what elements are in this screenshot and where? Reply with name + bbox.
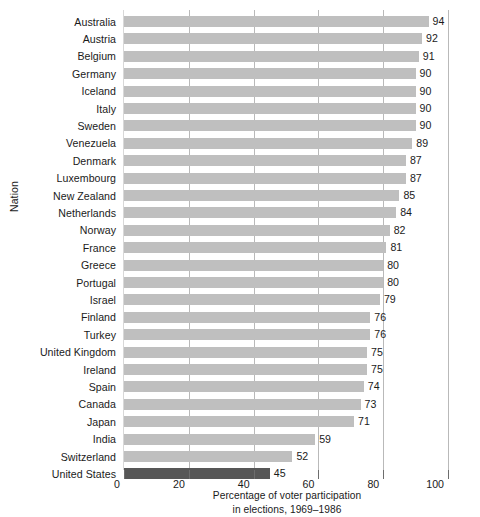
bar-row: 79	[124, 294, 448, 305]
bar-row: 80	[124, 260, 448, 271]
category-label-column: AustraliaAustriaBelgiumGermanyIcelandIta…	[0, 10, 116, 470]
bar-row: 90	[124, 68, 448, 79]
bar-value-label: 52	[296, 450, 308, 462]
x-tick-mark-80	[383, 470, 384, 479]
category-label-italy: Italy	[0, 104, 116, 115]
bar-luxembourg	[124, 173, 406, 184]
bar-austria	[124, 33, 422, 44]
plot-area: 9492919090909089878785848281808079767675…	[124, 10, 448, 470]
bar-value-label: 92	[426, 32, 438, 44]
bar-spain	[124, 381, 364, 392]
category-label-ireland: Ireland	[0, 365, 116, 376]
bar-value-label: 71	[358, 415, 370, 427]
x-axis-caption-line-2: in elections, 1969–1986	[124, 503, 450, 517]
category-label-sweden: Sweden	[0, 121, 116, 132]
x-axis-caption: Percentage of voter participation in ele…	[124, 489, 450, 516]
category-label-united-kingdom: United Kingdom	[0, 347, 116, 358]
bar-row: 76	[124, 329, 448, 340]
category-label-india: India	[0, 434, 116, 445]
category-label-japan: Japan	[0, 417, 116, 428]
bar-row: 87	[124, 173, 448, 184]
bar-value-label: 90	[420, 85, 432, 97]
bar-value-label: 90	[420, 67, 432, 79]
category-label-turkey: Turkey	[0, 330, 116, 341]
category-label-austria: Austria	[0, 34, 116, 45]
bar-finland	[124, 312, 370, 323]
category-label-canada: Canada	[0, 399, 116, 410]
bar-value-label: 80	[387, 259, 399, 271]
category-label-finland: Finland	[0, 312, 116, 323]
bar-row: 85	[124, 190, 448, 201]
bar-value-label: 75	[371, 346, 383, 358]
bar-row: 94	[124, 16, 448, 27]
bar-value-label: 74	[368, 380, 380, 392]
category-label-venezuela: Venezuela	[0, 138, 116, 149]
bar-australia	[124, 16, 429, 27]
bar-value-label: 73	[365, 398, 377, 410]
bar-row: 90	[124, 86, 448, 97]
bar-value-label: 80	[387, 276, 399, 288]
bar-denmark	[124, 155, 406, 166]
bar-portugal	[124, 277, 383, 288]
category-label-france: France	[0, 243, 116, 254]
bar-row: 76	[124, 312, 448, 323]
bar-value-label: 59	[319, 433, 331, 445]
bar-row: 80	[124, 277, 448, 288]
bar-row: 81	[124, 242, 448, 253]
bar-ireland	[124, 364, 367, 375]
bar-value-label: 91	[423, 50, 435, 62]
bar-row: 91	[124, 51, 448, 62]
category-label-belgium: Belgium	[0, 51, 116, 62]
gridline-100	[448, 10, 449, 470]
bar-france	[124, 242, 386, 253]
bar-row: 90	[124, 103, 448, 114]
bar-netherlands	[124, 207, 396, 218]
category-label-new-zealand: New Zealand	[0, 191, 116, 202]
bar-value-label: 76	[374, 311, 386, 323]
x-tick-label-0: 0	[84, 478, 120, 490]
bar-new-zealand	[124, 190, 399, 201]
bar-value-label: 76	[374, 328, 386, 340]
bar-row: 92	[124, 33, 448, 44]
bar-norway	[124, 225, 390, 236]
bar-value-label: 90	[420, 102, 432, 114]
category-label-greece: Greece	[0, 260, 116, 271]
bar-value-label: 75	[371, 363, 383, 375]
x-tick-mark-0	[124, 470, 125, 479]
bar-row: 82	[124, 225, 448, 236]
bar-belgium	[124, 51, 419, 62]
category-label-switzerland: Switzerland	[0, 452, 116, 463]
bar-row: 52	[124, 451, 448, 462]
bar-united-kingdom	[124, 347, 367, 358]
bar-switzerland	[124, 451, 292, 462]
bar-israel	[124, 294, 380, 305]
bar-italy	[124, 103, 416, 114]
category-label-iceland: Iceland	[0, 86, 116, 97]
category-label-norway: Norway	[0, 225, 116, 236]
bar-value-label: 81	[390, 241, 402, 253]
bar-canada	[124, 399, 361, 410]
bar-row: 90	[124, 120, 448, 131]
category-label-netherlands: Netherlands	[0, 208, 116, 219]
bar-greece	[124, 260, 383, 271]
category-label-spain: Spain	[0, 382, 116, 393]
category-label-germany: Germany	[0, 69, 116, 80]
bar-row: 75	[124, 364, 448, 375]
category-label-luxembourg: Luxembourg	[0, 173, 116, 184]
bar-venezuela	[124, 138, 412, 149]
bar-row: 71	[124, 416, 448, 427]
category-label-portugal: Portugal	[0, 278, 116, 289]
bar-sweden	[124, 120, 416, 131]
bar-value-label: 85	[403, 189, 415, 201]
bar-row: 84	[124, 207, 448, 218]
voter-participation-bar-chart: Nation AustraliaAustriaBelgiumGermanyIce…	[0, 0, 480, 517]
x-tick-mark-60	[318, 470, 319, 479]
bar-value-label: 90	[420, 119, 432, 131]
x-tick-mark-20	[189, 470, 190, 479]
bar-iceland	[124, 86, 416, 97]
bar-row: 87	[124, 155, 448, 166]
bar-value-label: 87	[410, 172, 422, 184]
x-tick-mark-100	[448, 470, 449, 479]
bar-india	[124, 434, 315, 445]
bar-japan	[124, 416, 354, 427]
